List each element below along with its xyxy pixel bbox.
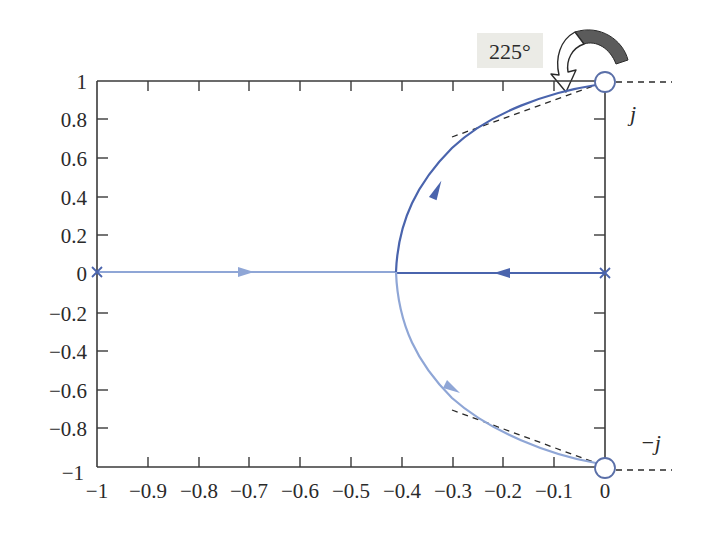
curved-arrow-tail-icon [575,30,628,64]
x-tick-label: 0 [600,479,611,503]
root-locus-chart: 225° 1 0.8 0.6 0.4 [0,0,709,543]
x-tick-label: −0.9 [129,479,167,503]
x-tick-label: −1 [86,479,108,503]
y-tick-label: 0.2 [61,224,87,248]
curved-arrow-head-icon [551,32,584,92]
x-tick-labels: −1 −0.9 −0.8 −0.7 −0.6 −0.5 −0.4 −0.3 −0… [86,479,610,503]
arrow-right-icon [238,267,254,277]
y-tick-labels: 1 0.8 0.6 0.4 0.2 0 −0.2 −0.4 −0.6 −0.8 … [49,70,88,485]
y-tick-label: 0.6 [61,147,87,171]
y-tick-label: −0.8 [49,417,87,441]
zero-marker-icon [595,72,615,92]
zero-marker-icon [595,458,615,478]
x-tick-label: −0.6 [281,479,319,503]
y-tick-label: −0.6 [49,379,87,403]
arrow-up-icon [429,179,442,200]
angle-label: 225° [489,39,531,64]
x-tick-label: −0.5 [332,479,370,503]
locus-branches [97,85,605,463]
upper-tangent-line [452,85,596,137]
x-tick-label: −0.2 [484,479,522,503]
x-tick-label: −0.1 [535,479,573,503]
label-minus-j: −j [640,430,661,455]
branch-lower [396,272,596,463]
y-tick-label: 0.4 [61,186,88,210]
x-tick-label: −0.4 [383,479,422,503]
lower-tangent-line [452,410,596,463]
y-tick-label: −1 [62,461,84,485]
branch-upper [396,85,596,272]
x-tick-label: −0.8 [180,479,218,503]
y-tick-label: 0.8 [61,108,87,132]
label-j: j [627,101,636,126]
dashed-guides [452,82,672,470]
x-tick-label: −0.3 [434,479,472,503]
x-tick-label: −0.7 [230,479,268,503]
y-tick-label: 0 [77,262,88,286]
y-tick-label: 1 [77,70,88,94]
y-tick-label: −0.4 [49,340,88,364]
arrow-left-icon [494,268,510,278]
y-tick-label: −0.2 [49,302,87,326]
